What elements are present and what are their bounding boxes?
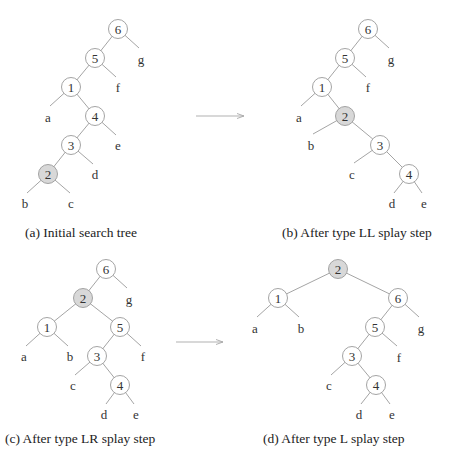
panel-d-subtrees: abgfcde <box>252 321 425 422</box>
tree-node: 1 <box>38 318 57 337</box>
subtree-label: a <box>296 110 302 125</box>
subtree-letter: g <box>126 292 133 307</box>
tree-node: 4 <box>111 376 130 395</box>
subtree-label: f <box>141 349 146 364</box>
node-label: 3 <box>68 138 75 153</box>
nodes-layer: 651432651234621534216534 <box>38 20 419 395</box>
splayed-node: 2 <box>39 165 58 184</box>
tree-node: 3 <box>371 136 390 155</box>
subtree-letter: f <box>141 349 146 364</box>
node-label: 5 <box>342 51 349 66</box>
splayed-node: 2 <box>336 107 355 126</box>
subtree-label: a <box>252 321 258 336</box>
subtree-letter: e <box>133 407 139 422</box>
subtree-letter: g <box>388 52 395 67</box>
tree-node: 4 <box>367 376 386 395</box>
subtree-letter: f <box>397 350 402 365</box>
tree-node: 5 <box>336 49 355 68</box>
node-label: 5 <box>372 320 379 335</box>
tree-node: 5 <box>366 318 385 337</box>
subtree-letter: a <box>296 110 302 125</box>
node-label: 6 <box>103 262 110 277</box>
subtree-label: b <box>298 321 305 336</box>
subtree-label: f <box>116 80 121 95</box>
subtree-letter: f <box>116 80 121 95</box>
subtree-letter: f <box>366 80 371 95</box>
subtree-letter: a <box>252 321 258 336</box>
panel-d-caption: (d) After type L splay step <box>263 431 405 446</box>
subtree-letter: d <box>356 407 363 422</box>
subtree-label: g <box>126 292 133 307</box>
subtree-label: f <box>366 80 371 95</box>
subtree-letter: c <box>326 378 332 393</box>
subtree-label: c <box>68 196 74 211</box>
node-label: 3 <box>94 349 101 364</box>
subtree-label: c <box>326 378 332 393</box>
node-label: 5 <box>117 320 124 335</box>
node-label: 4 <box>92 109 99 124</box>
panel-b-caption: (b) After type LL splay step <box>282 225 432 240</box>
subtree-label: e <box>133 407 139 422</box>
node-label: 6 <box>365 22 372 37</box>
node-label: 2 <box>80 291 87 306</box>
subtree-letter: g <box>418 321 425 336</box>
tree-node: 6 <box>389 289 408 308</box>
panel-d-nodes: 216534 <box>269 260 408 395</box>
subtree-letter: d <box>389 196 396 211</box>
tree-node: 3 <box>88 347 107 366</box>
subtree-letter: c <box>70 378 76 393</box>
subtree-letter: b <box>22 196 29 211</box>
arrow-a-to-b <box>196 114 244 119</box>
node-label: 2 <box>342 109 349 124</box>
subtree-letter: e <box>115 138 121 153</box>
subtree-letter: e <box>421 196 427 211</box>
splayed-node: 2 <box>329 260 348 279</box>
tree-node: 5 <box>111 318 130 337</box>
subtree-label: c <box>70 378 76 393</box>
tree-node: 6 <box>109 20 128 39</box>
tree-node: 1 <box>62 78 81 97</box>
splayed-node: 2 <box>74 289 93 308</box>
node-label: 1 <box>319 80 326 95</box>
panel-b-nodes: 651234 <box>313 20 419 184</box>
subtree-label: a <box>21 349 27 364</box>
node-label: 1 <box>275 291 282 306</box>
subtree-label: b <box>67 349 74 364</box>
subtree-label: b <box>22 196 29 211</box>
subtree-letter: a <box>45 110 51 125</box>
tree-node: 6 <box>359 20 378 39</box>
node-label: 4 <box>406 167 413 182</box>
node-label: 5 <box>92 51 99 66</box>
tree-edge <box>338 269 398 298</box>
node-label: 3 <box>349 349 356 364</box>
subtree-label: e <box>389 407 395 422</box>
subtree-letter: a <box>21 349 27 364</box>
splay-tree-diagram: 651432651234621534216534 gfaedbcgfabcdeg… <box>0 0 457 471</box>
subtree-label: e <box>115 138 121 153</box>
panel-c-subtrees: gabfcde <box>21 292 146 422</box>
panel-c-caption: (c) After type LR splay step <box>5 431 156 446</box>
subtree-label: d <box>356 407 363 422</box>
subtree-letter: e <box>389 407 395 422</box>
subtree-letter: c <box>68 196 74 211</box>
node-label: 2 <box>45 167 52 182</box>
subtree-label: b <box>308 138 315 153</box>
tree-node: 5 <box>86 49 105 68</box>
tree-node: 1 <box>269 289 288 308</box>
edges-layer <box>26 29 422 404</box>
tree-node: 1 <box>313 78 332 97</box>
node-label: 6 <box>395 291 402 306</box>
panel-a-caption: (a) Initial search tree <box>25 225 137 240</box>
subtree-label: d <box>101 407 108 422</box>
node-label: 1 <box>68 80 75 95</box>
tree-node: 4 <box>86 107 105 126</box>
tree-node: 6 <box>97 260 116 279</box>
panel-c-nodes: 621534 <box>38 260 130 395</box>
subtree-label: g <box>388 52 395 67</box>
subtree-letter: d <box>101 407 108 422</box>
subtree-letter: d <box>92 167 99 182</box>
node-label: 6 <box>115 22 122 37</box>
tree-node: 3 <box>343 347 362 366</box>
subtree-label: f <box>397 350 402 365</box>
node-label: 4 <box>117 378 124 393</box>
